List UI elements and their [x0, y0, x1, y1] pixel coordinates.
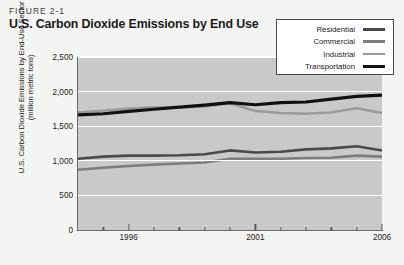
x-axis-major-tick: [128, 224, 129, 231]
legend-item-label: Commercial: [313, 37, 355, 46]
x-axis-minor-tick: [179, 227, 180, 231]
y-axis-tick-label: 2,500: [53, 53, 74, 62]
x-axis-minor-tick: [356, 227, 357, 231]
figure-title: U.S. Carbon Dioxide Emissions by End Use: [9, 17, 258, 31]
y-axis-tick-label: 500: [59, 191, 73, 200]
x-axis-minor-tick: [280, 227, 281, 231]
x-axis-major-tick: [381, 224, 382, 231]
x-axis-minor-tick: [204, 227, 205, 231]
x-axis-tick-label: 2001: [246, 233, 264, 242]
y-axis-label-line2: (million metric tons): [26, 0, 35, 187]
y-axis-label: U.S. Carbon Dioxide Emissions by End-Use…: [17, 0, 36, 187]
legend-swatch-icon: [363, 65, 385, 68]
x-axis-major-tick: [255, 224, 256, 231]
y-axis-tick-label: 0: [68, 226, 73, 235]
legend-item-label: Residential: [316, 25, 355, 34]
legend-swatch-icon: [363, 28, 385, 31]
gridline: [78, 195, 382, 196]
x-axis-tick-label: 1996: [120, 233, 138, 242]
legend-item-label: Transportation: [305, 62, 355, 71]
legend-item-transportation: Transportation: [281, 61, 387, 74]
x-axis-minor-tick: [305, 227, 306, 231]
legend-swatch-icon: [363, 40, 385, 43]
data-lines: [78, 57, 382, 230]
legend-item-residential: Residential: [281, 23, 387, 36]
chart-legend: ResidentialCommercialIndustrialTransport…: [276, 19, 394, 75]
y-axis-tick-label: 1,500: [53, 122, 74, 131]
y-axis-tick-label: 2,000: [53, 87, 74, 96]
legend-item-commercial: Commercial: [281, 36, 387, 49]
x-axis-minor-tick: [153, 227, 154, 231]
gridline: [78, 91, 382, 92]
x-axis-tick-label: 2006: [373, 233, 391, 242]
x-axis-minor-tick: [103, 227, 104, 231]
legend-swatch-icon: [363, 53, 385, 55]
legend-item-label: Industrial: [323, 50, 355, 59]
y-axis-tick-label: 1,000: [53, 156, 74, 165]
y-axis-label-line1: U.S. Carbon Dioxide Emissions by End-Use…: [17, 0, 26, 187]
gridline: [78, 126, 382, 127]
x-axis-minor-tick: [229, 227, 230, 231]
series-line-commercial: [78, 156, 382, 170]
plot-area: 05001,0001,5002,0002,500199620012006: [78, 57, 382, 230]
gridline: [78, 160, 382, 161]
legend-item-industrial: Industrial: [281, 48, 387, 61]
x-axis-minor-tick: [331, 227, 332, 231]
figure-container: FIGURE 2-1 U.S. Carbon Dioxide Emissions…: [0, 0, 404, 265]
